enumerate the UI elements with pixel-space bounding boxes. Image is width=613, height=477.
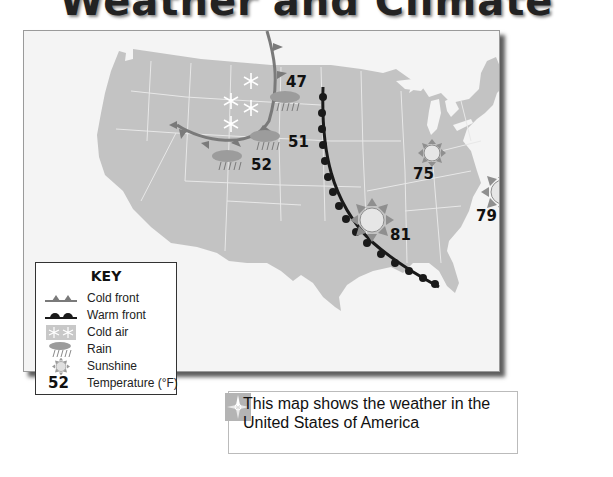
key-item-warm-front: Warm front xyxy=(44,307,174,324)
key-title: KEY xyxy=(36,268,176,284)
key-item-rain: Rain xyxy=(44,341,174,358)
caption-box: This map shows the weather in the United… xyxy=(228,391,518,454)
warm-front-icon xyxy=(44,307,78,324)
key-item-sunshine: Sunshine xyxy=(44,358,174,375)
map-key: KEY Cold front Warm front Cold air xyxy=(35,262,177,395)
key-item-cold-front: Cold front xyxy=(44,290,174,307)
caption-text: This map shows the weather in the United… xyxy=(243,394,505,432)
temperature-label: 51 xyxy=(288,133,309,151)
temperature-sample: 52 xyxy=(48,374,69,392)
page-title: Weather and Climate Maps xyxy=(0,0,613,18)
temperature-label: 75 xyxy=(413,165,434,183)
temperature-label: 52 xyxy=(251,156,272,174)
temperature-label: 79 xyxy=(476,207,497,225)
rain-icon xyxy=(44,341,78,358)
sunshine-icon xyxy=(44,358,78,375)
cold-front-icon xyxy=(44,290,78,307)
temperature-label: 47 xyxy=(286,73,307,91)
cold-air-icon xyxy=(44,324,78,341)
key-item-temperature: 52 Temperature (°F) xyxy=(44,375,174,392)
key-item-cold-air: Cold air xyxy=(44,324,174,341)
temperature-label: 81 xyxy=(390,226,411,244)
